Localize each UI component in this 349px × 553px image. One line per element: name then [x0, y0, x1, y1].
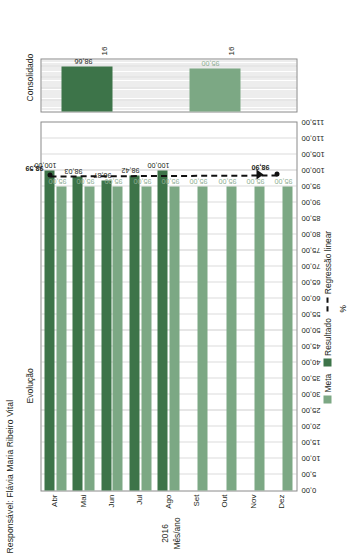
bar-meta	[197, 186, 207, 490]
bar-label-resultado: 100,00	[34, 161, 56, 168]
bar-label-resultado: 98,42	[121, 166, 139, 173]
bar-label-resultado-consolidado: 98,66	[74, 57, 92, 64]
value-axis-tick: 65,00	[301, 278, 320, 287]
bar-label-meta: 95,00	[48, 177, 66, 184]
consolidado-category-label: 16	[226, 37, 235, 55]
value-axis-tick: 50,00	[301, 326, 320, 335]
bar-label-meta: 95,00	[161, 177, 179, 184]
bar-meta	[169, 186, 179, 490]
value-axis-tick: 10,00	[301, 454, 320, 463]
value-axis-tick: 70,00	[301, 262, 320, 271]
bar-label-meta: 95,00	[274, 177, 292, 184]
value-axis-tick: 20,00	[301, 422, 320, 431]
legend-dashed-line-icon	[326, 297, 328, 311]
category-label: Ago	[163, 494, 172, 512]
value-axis-tick: 115,00	[301, 118, 324, 127]
value-axis-tick: 85,00	[301, 214, 320, 223]
value-axis-tick: 35,00	[301, 374, 320, 383]
bar-resultado	[101, 180, 111, 490]
category-label: Out	[219, 494, 228, 512]
responsible-title: Responsável: Flávia Maria Ribeiro Vital	[4, 0, 14, 553]
category-label: Abr	[49, 494, 58, 512]
value-axis-tick: 105,00	[301, 150, 324, 159]
value-axis-tick: 0,00	[301, 486, 316, 495]
bar-label-meta: 95,00	[76, 177, 94, 184]
legend-item-regressao: Regressão linear	[322, 230, 332, 310]
value-axis-tick: 40,00	[301, 358, 320, 367]
bar-meta	[84, 186, 94, 490]
bar-label-meta-consolidado: 95,00	[201, 59, 219, 66]
bar-meta	[282, 186, 292, 490]
bar-resultado	[157, 170, 167, 490]
chart-legend: Meta Resultado Regressão linear	[322, 230, 332, 403]
value-axis-tick: 5,00	[301, 470, 316, 479]
bar-meta	[56, 186, 66, 490]
bar-resultado	[44, 170, 54, 490]
bar-meta	[254, 186, 264, 490]
legend-label-resultado: Resultado	[322, 318, 332, 356]
value-axis-tick: 90,00	[301, 198, 320, 207]
category-label: Jun	[106, 494, 115, 512]
value-axis-tick: 100,00	[301, 166, 324, 175]
legend-item-meta: Meta	[322, 373, 332, 403]
category-label: Jul	[134, 494, 143, 512]
value-axis-tick: 45,00	[301, 342, 320, 351]
value-axis-tick: 80,00	[301, 230, 320, 239]
bar-label-meta: 95,00	[133, 177, 151, 184]
category-label: Dez	[276, 494, 285, 512]
regression-point-end	[274, 171, 279, 176]
bar-meta	[141, 186, 151, 490]
panel-title-consolidado: Consolidado	[24, 53, 34, 101]
legend-swatch-resultado-icon	[323, 358, 331, 366]
legend-label-regressao: Regressão linear	[322, 230, 332, 293]
evolucao-plot-frame: 100,0095,0098,0395,0096,8795,0098,4295,0…	[40, 121, 297, 491]
panel-title-evolucao: Evolução	[24, 368, 34, 403]
consolidado-plot-frame: 98,6695,00	[40, 58, 297, 112]
category-axis-title: Mês/ano	[171, 515, 181, 551]
bar-meta	[112, 186, 122, 490]
bar-resultado-consolidado	[61, 66, 112, 111]
consolidado-category-label: 16	[99, 37, 108, 55]
bar-resultado	[129, 175, 139, 490]
bar-meta	[226, 186, 236, 490]
value-axis-tick: 30,00	[301, 390, 320, 399]
legend-label-meta: Meta	[322, 373, 332, 392]
value-axis-tick: 95,00	[301, 182, 320, 191]
chart-stage: Responsável: Flávia Maria Ribeiro Vital …	[0, 0, 349, 553]
bar-label-resultado: 100,00	[147, 161, 169, 168]
legend-swatch-meta-icon	[323, 395, 331, 403]
category-label: Set	[191, 494, 200, 512]
value-axis-title: %	[337, 305, 347, 312]
value-axis-tick: 55,00	[301, 310, 320, 319]
bar-label-meta: 95,00	[189, 177, 207, 184]
legend-item-resultado: Resultado	[322, 318, 332, 367]
category-label: Nov	[248, 494, 257, 512]
bar-label-meta: 95,00	[104, 177, 122, 184]
bar-label-meta: 95,00	[218, 177, 236, 184]
bar-meta-consolidado	[189, 68, 240, 111]
category-label: Mai	[78, 494, 87, 512]
bar-label-meta: 95,00	[246, 177, 264, 184]
value-axis-tick: 25,00	[301, 406, 320, 415]
value-axis-tick: 110,00	[301, 134, 324, 143]
value-axis-tick: 60,00	[301, 294, 320, 303]
bar-resultado	[72, 176, 82, 490]
axis-year-label: 2016	[159, 515, 169, 551]
bar-label-resultado: 98,03	[64, 167, 82, 174]
value-axis-tick: 75,00	[301, 246, 320, 255]
value-axis-tick: 15,00	[301, 438, 320, 447]
